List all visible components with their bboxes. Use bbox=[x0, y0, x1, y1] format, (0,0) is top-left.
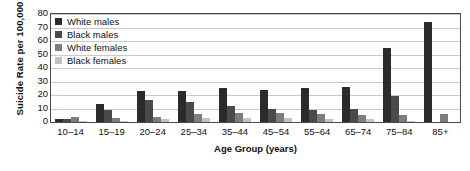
x-axis-label: Age Group (years) bbox=[50, 143, 461, 154]
bar bbox=[186, 102, 194, 122]
bar bbox=[358, 115, 366, 122]
bar bbox=[399, 115, 407, 122]
bar-group bbox=[337, 14, 378, 122]
bar bbox=[276, 113, 284, 122]
y-tick-40: 40 bbox=[26, 62, 48, 72]
bar bbox=[153, 117, 161, 122]
bar bbox=[112, 118, 120, 122]
x-tick-label: 25–34 bbox=[173, 126, 214, 137]
x-tick-label: 35–44 bbox=[214, 126, 255, 137]
bar bbox=[55, 119, 63, 122]
bar bbox=[161, 119, 169, 122]
legend-item: White females bbox=[55, 42, 127, 53]
bar bbox=[440, 114, 448, 122]
legend-swatch-icon bbox=[55, 18, 62, 25]
bar bbox=[219, 88, 227, 122]
bar bbox=[317, 114, 325, 122]
bar bbox=[260, 90, 268, 122]
bar-group bbox=[174, 14, 215, 122]
y-tick-50: 50 bbox=[26, 49, 48, 59]
bar bbox=[268, 109, 276, 123]
bar bbox=[79, 121, 87, 122]
x-tick-label: 20–24 bbox=[132, 126, 173, 137]
x-tick-label: 85+ bbox=[420, 126, 461, 137]
bar bbox=[145, 100, 153, 122]
bar bbox=[407, 121, 415, 122]
x-tick-label: 15–19 bbox=[91, 126, 132, 137]
y-tick-60: 60 bbox=[26, 35, 48, 45]
bar bbox=[227, 106, 235, 122]
bar bbox=[366, 119, 374, 122]
legend-item: White males bbox=[55, 16, 127, 27]
y-tick-20: 20 bbox=[26, 89, 48, 99]
bar bbox=[284, 118, 292, 122]
bar bbox=[96, 104, 104, 122]
suicide-rate-bar-chart: Suicide Rate per 100,000 807060504030201… bbox=[0, 0, 470, 171]
bar bbox=[194, 114, 202, 122]
legend-label: White males bbox=[67, 17, 119, 27]
x-tick-label: 65–74 bbox=[338, 126, 379, 137]
legend-label: Black males bbox=[67, 30, 118, 40]
bar bbox=[120, 121, 128, 122]
bar bbox=[383, 48, 391, 122]
bar bbox=[137, 91, 145, 122]
bar-group bbox=[133, 14, 174, 122]
bar bbox=[424, 22, 432, 122]
legend-label: Black females bbox=[67, 56, 126, 66]
bar bbox=[243, 118, 251, 122]
legend-item: Black males bbox=[55, 29, 127, 40]
bar bbox=[202, 118, 210, 122]
bar bbox=[391, 96, 399, 122]
x-tick-label: 45–54 bbox=[255, 126, 296, 137]
bar bbox=[301, 88, 309, 122]
bar-group bbox=[419, 14, 460, 122]
y-axis-tick-labels: 80706050403020100 bbox=[26, 7, 48, 127]
bar-group bbox=[256, 14, 297, 122]
x-tick-label: 10–14 bbox=[50, 126, 91, 137]
x-tick-label: 75–84 bbox=[379, 126, 420, 137]
legend-swatch-icon bbox=[55, 31, 62, 38]
bar bbox=[178, 91, 186, 122]
y-tick-80: 80 bbox=[26, 8, 48, 18]
bar-group bbox=[215, 14, 256, 122]
legend: White malesBlack malesWhite femalesBlack… bbox=[55, 16, 127, 66]
y-tick-10: 10 bbox=[26, 103, 48, 113]
y-tick-30: 30 bbox=[26, 76, 48, 86]
bar bbox=[235, 113, 243, 122]
legend-swatch-icon bbox=[55, 57, 62, 64]
legend-item: Black females bbox=[55, 55, 127, 66]
bar bbox=[104, 110, 112, 122]
y-tick-70: 70 bbox=[26, 22, 48, 32]
legend-swatch-icon bbox=[55, 44, 62, 51]
bar bbox=[350, 109, 358, 123]
bar-group bbox=[296, 14, 337, 122]
bar bbox=[342, 87, 350, 122]
x-tick-label: 55–64 bbox=[297, 126, 338, 137]
bar bbox=[325, 119, 333, 122]
bar bbox=[63, 119, 71, 122]
bar bbox=[71, 117, 79, 122]
legend-label: White females bbox=[67, 43, 127, 53]
y-axis-label: Suicide Rate per 100,000 bbox=[14, 0, 25, 124]
x-axis-tick-labels: 10–1415–1920–2425–3435–4445–5455–6465–74… bbox=[50, 126, 461, 137]
bar-group bbox=[378, 14, 419, 122]
y-tick-0: 0 bbox=[26, 116, 48, 126]
bar bbox=[309, 110, 317, 122]
